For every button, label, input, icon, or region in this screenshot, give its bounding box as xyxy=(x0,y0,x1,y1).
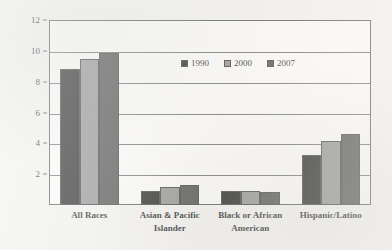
legend-item-2000: 2000 xyxy=(224,58,252,68)
bar-chart: millions of people 24681012 199020002007… xyxy=(0,0,392,250)
y-tick-mark xyxy=(43,143,47,144)
x-label-line: Islander xyxy=(154,223,186,233)
y-tick-mark xyxy=(43,174,47,175)
bar xyxy=(221,191,241,205)
legend-swatch-icon xyxy=(267,60,274,67)
bar xyxy=(321,141,341,205)
y-tick-label: 4 xyxy=(36,138,41,148)
x-label-line: Hispanic/Latino xyxy=(300,210,362,220)
legend-label: 2000 xyxy=(234,58,252,68)
bar xyxy=(260,192,280,205)
bar xyxy=(160,187,180,205)
x-axis-label: Black or AfricanAmerican xyxy=(210,209,291,234)
bar-group xyxy=(60,20,119,205)
x-axis-label: Hispanic/Latino xyxy=(291,209,372,222)
bar xyxy=(341,134,361,205)
x-label-line: All Races xyxy=(71,210,107,220)
x-axis-label: Asian & PacificIslander xyxy=(130,209,211,234)
y-tick-label: 2 xyxy=(36,169,41,179)
y-tick-label: 12 xyxy=(31,15,40,25)
chart-legend: 199020002007 xyxy=(181,58,295,68)
y-tick-mark xyxy=(43,112,47,113)
bars-layer xyxy=(49,20,371,205)
bar-group xyxy=(221,20,280,205)
bar-group xyxy=(302,20,361,205)
x-axis-label: All Races xyxy=(49,209,130,222)
legend-item-1990: 1990 xyxy=(181,58,209,68)
bar xyxy=(141,191,161,205)
bar xyxy=(180,185,200,205)
bar xyxy=(80,59,100,205)
bar xyxy=(60,69,80,205)
bar xyxy=(99,53,119,205)
y-tick-label: 10 xyxy=(31,46,40,56)
legend-label: 2007 xyxy=(277,58,295,68)
x-label-line: Asian & Pacific xyxy=(140,210,200,220)
legend-swatch-icon xyxy=(181,60,188,67)
legend-item-2007: 2007 xyxy=(267,58,295,68)
y-tick-label: 6 xyxy=(36,108,41,118)
bar xyxy=(241,191,261,205)
bar-group xyxy=(141,20,200,205)
y-tick-label: 8 xyxy=(36,77,41,87)
x-label-line: Black or African xyxy=(218,210,282,220)
y-tick-mark xyxy=(43,81,47,82)
y-tick-mark xyxy=(43,50,47,51)
legend-swatch-icon xyxy=(224,60,231,67)
y-tick-mark xyxy=(43,20,47,21)
x-label-line: American xyxy=(231,223,269,233)
legend-label: 1990 xyxy=(191,58,209,68)
y-axis-tick-labels: 24681012 xyxy=(0,20,47,205)
bar xyxy=(302,155,322,205)
x-axis-category-labels: All RacesAsian & PacificIslanderBlack or… xyxy=(49,209,371,247)
